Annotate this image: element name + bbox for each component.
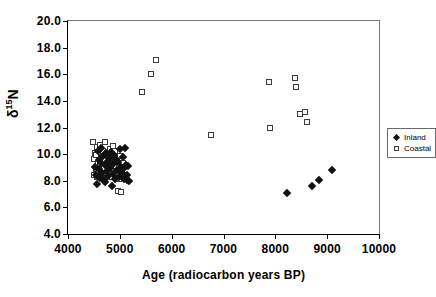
y-axis-tick-label: 16.0 [37, 67, 61, 81]
data-point-inland [315, 176, 323, 184]
y-axis-tick-label: 20.0 [37, 14, 61, 28]
y-axis-title: δ15N [4, 89, 21, 118]
data-point-coastal [139, 89, 145, 95]
x-axis-tick-label: 7000 [210, 242, 238, 256]
x-axis-tick [68, 234, 69, 239]
y-axis-tick-label: 14.0 [37, 94, 61, 108]
x-axis-title: Age (radiocarbon years BP) [67, 268, 380, 282]
plot-area: 4.06.08.010.012.014.016.018.020.04000500… [67, 20, 380, 235]
y-axis-title-element: N [5, 89, 21, 99]
data-point-inland [121, 144, 129, 152]
y-axis-tick-label: 8.0 [44, 174, 61, 188]
x-axis-tick [275, 234, 276, 239]
data-point-coastal [302, 109, 308, 115]
scatter-chart-figure: δ15N 4.06.08.010.012.014.016.018.020.040… [0, 0, 436, 297]
data-point-inland [308, 182, 316, 190]
legend-marker-coastal-icon [391, 146, 401, 151]
data-point-coastal [118, 189, 124, 195]
y-axis-tick-label: 10.0 [37, 147, 61, 161]
data-point-coastal [102, 139, 108, 145]
chart-legend: Inland Coastal [387, 128, 436, 158]
legend-label-inland: Inland [404, 133, 426, 142]
y-axis-tick [63, 21, 68, 22]
data-point-inland [328, 166, 336, 174]
x-axis-tick-label: 5000 [106, 242, 134, 256]
x-axis-tick [224, 234, 225, 239]
x-axis-tick [327, 234, 328, 239]
data-point-coastal [304, 119, 310, 125]
y-axis-tick [63, 154, 68, 155]
y-axis-title-symbol: δ [5, 110, 21, 119]
data-point-coastal [153, 57, 159, 63]
x-axis-tick-label: 10000 [362, 242, 396, 256]
y-axis-tick-label: 18.0 [37, 41, 61, 55]
legend-marker-inland-icon [391, 135, 401, 140]
data-point-coastal [293, 84, 299, 90]
data-point-coastal [148, 71, 154, 77]
data-point-coastal [266, 79, 272, 85]
y-axis-tick [63, 181, 68, 182]
data-point-coastal [292, 75, 298, 81]
x-axis-tick [379, 234, 380, 239]
data-point-coastal [208, 132, 214, 138]
y-axis-tick [63, 48, 68, 49]
y-axis-tick-label: 12.0 [37, 121, 61, 135]
x-axis-tick [120, 234, 121, 239]
x-axis-tick-label: 9000 [313, 242, 341, 256]
data-point-coastal [267, 125, 273, 131]
data-point-inland [283, 188, 291, 196]
legend-label-coastal: Coastal [404, 144, 431, 153]
x-axis-tick-label: 6000 [158, 242, 186, 256]
y-axis-tick [63, 128, 68, 129]
y-axis-title-superscript: 15 [4, 99, 14, 109]
y-axis-tick [63, 101, 68, 102]
data-points-layer [68, 21, 379, 234]
x-axis-tick-label: 4000 [54, 242, 82, 256]
x-axis-tick [172, 234, 173, 239]
legend-item-inland: Inland [391, 132, 431, 143]
y-axis-tick-label: 6.0 [44, 200, 61, 214]
y-axis-tick-label: 4.0 [44, 227, 61, 241]
legend-item-coastal: Coastal [391, 143, 431, 154]
y-axis-tick [63, 207, 68, 208]
x-axis-tick-label: 8000 [262, 242, 290, 256]
y-axis-tick [63, 74, 68, 75]
